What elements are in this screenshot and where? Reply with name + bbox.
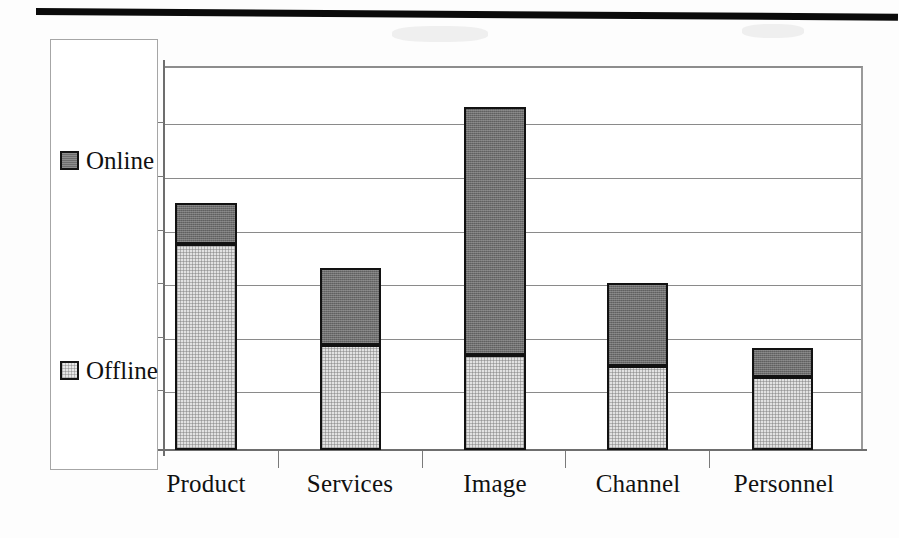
bar-segment-online[interactable] [320,268,381,345]
top-horizontal-rule [36,8,898,21]
bar-channel[interactable] [607,283,668,450]
bar-segment-online[interactable] [752,348,813,377]
offline-swatch-icon [60,361,79,380]
bar-segment-offline[interactable] [752,377,813,450]
x-axis-tick [422,451,423,468]
bar-segment-offline[interactable] [175,244,237,450]
bar-segment-online[interactable] [175,203,237,244]
bar-services[interactable] [320,268,381,450]
bar-product[interactable] [175,203,237,450]
x-axis-tick [709,451,710,468]
x-axis-label-personnel: Personnel [714,470,854,498]
bar-segment-offline[interactable] [320,345,381,450]
bar-image[interactable] [464,107,526,450]
chart-legend: Online Offline [50,39,158,470]
y-axis-line [163,60,165,456]
legend-label-online: Online [86,148,154,173]
bar-segment-offline[interactable] [464,355,526,450]
legend-label-offline: Offline [86,358,158,383]
bar-segment-online[interactable] [607,283,668,366]
legend-item-online[interactable]: Online [60,148,154,173]
x-axis-label-image: Image [436,470,554,498]
online-swatch-icon [60,151,79,170]
legend-item-offline[interactable]: Offline [60,358,158,383]
x-axis-label-services: Services [289,470,411,498]
chart-page: Product Services Image Channel Personnel… [0,0,899,538]
x-axis-tick [565,451,566,468]
x-axis-label-product: Product [146,470,266,498]
x-axis-tick [278,451,279,468]
x-axis-label-channel: Channel [577,470,699,498]
bar-segment-online[interactable] [464,107,526,355]
scan-smudge [742,24,804,38]
bar-personnel[interactable] [752,348,813,450]
scan-smudge [392,26,488,42]
bar-segment-offline[interactable] [607,366,668,450]
